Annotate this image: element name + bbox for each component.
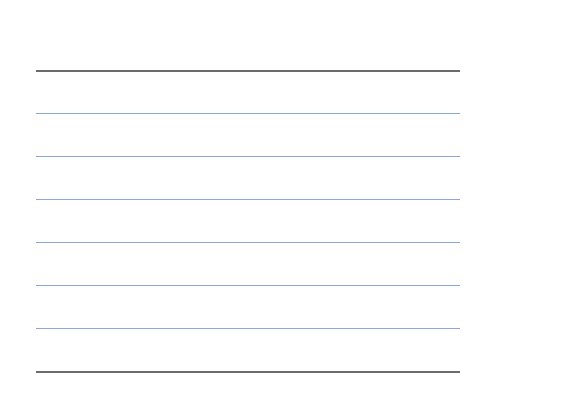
proficiency-levels-legend bbox=[487, 70, 548, 372]
chart-container bbox=[0, 0, 579, 416]
